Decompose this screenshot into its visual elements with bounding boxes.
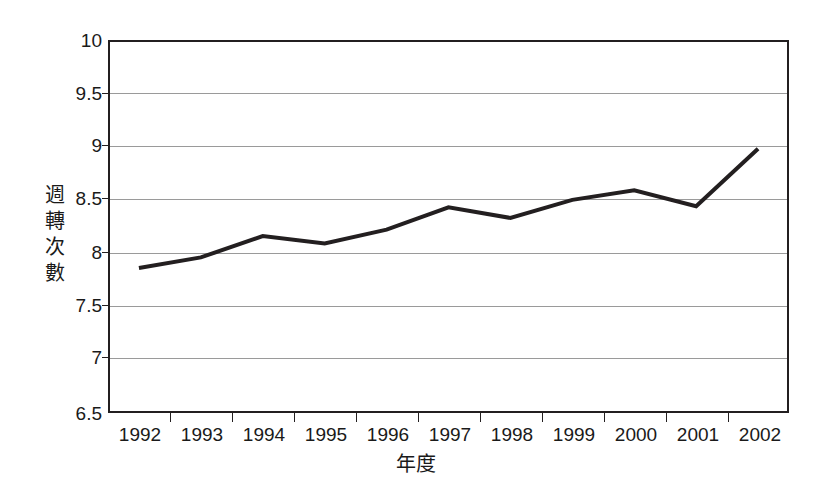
y-tick-mark-9-5 [102,93,110,94]
x-tick-mark-0 [170,413,171,422]
y-tick-label-9-5: 9.5 [76,84,102,103]
y-tick-mark-8-0 [102,252,110,253]
y-tick-mark-7-5 [102,305,110,306]
y-tick-mark-8-5 [102,198,110,199]
x-tick-label-1994: 1994 [233,424,295,446]
x-tick-label-1999: 1999 [543,424,605,446]
y-tick-label-8-5: 8.5 [76,189,102,208]
gridline-9-5 [110,93,787,94]
x-axis-title: 年度 [0,452,832,476]
x-tick-label-1997: 1997 [419,424,481,446]
x-tick-mark-9 [728,413,729,422]
gridline-7-5 [110,306,787,307]
line-chart: 10 9.5 9 8.5 8 7.5 7 6.5 週轉次數 1992 1993 … [0,0,832,499]
y-tick-mark-7-0 [102,357,110,358]
x-tick-mark-2 [294,413,295,422]
x-tick-label-2000: 2000 [605,424,667,446]
x-tick-mark-8 [666,413,667,422]
y-tick-mark-9-0 [102,145,110,146]
x-tick-label-2001: 2001 [667,424,729,446]
x-tick-label-1998: 1998 [481,424,543,446]
y-tick-label-8: 8 [91,243,102,262]
gridline-7-0 [110,358,787,359]
x-tick-mark-4 [418,413,419,422]
x-tick-label-2002: 2002 [729,424,791,446]
x-tick-mark-3 [356,413,357,422]
y-tick-label-6-5: 6.5 [76,404,102,423]
x-tick-mark-1 [232,413,233,422]
y-tick-label-9: 9 [91,136,102,155]
y-tick-label-7: 7 [91,348,102,367]
x-tick-label-1993: 1993 [171,424,233,446]
y-axis-title: 週轉次數 [42,182,68,286]
x-tick-label-1995: 1995 [295,424,357,446]
plot-area [108,40,789,413]
x-tick-label-1992: 1992 [109,424,171,446]
gridline-8-5 [110,199,787,200]
x-tick-mark-5 [480,413,481,422]
x-tick-label-1996: 1996 [357,424,419,446]
gridline-9-0 [110,146,787,147]
x-tick-mark-6 [542,413,543,422]
y-tick-label-7-5: 7.5 [76,296,102,315]
x-tick-mark-7 [604,413,605,422]
gridline-8-0 [110,253,787,254]
y-tick-label-10: 10 [81,31,102,50]
